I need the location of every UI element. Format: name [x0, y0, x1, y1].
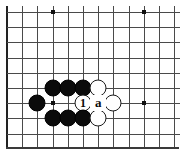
- grid-line-horizontal-3: [7, 58, 180, 59]
- white-stone-g8[interactable]: [90, 110, 107, 127]
- black-stone-c7[interactable]: [29, 95, 46, 112]
- goban-grid[interactable]: 1a: [0, 0, 186, 163]
- go-board-figure: 1a: [0, 0, 186, 163]
- grid-line-horizontal-1: [7, 27, 180, 28]
- grid-line-bottom-border: [6, 147, 179, 149]
- white-stone-g6[interactable]: [90, 80, 107, 97]
- star-point-middle-right: [142, 101, 146, 105]
- grid-line-horizontal-8: [7, 134, 180, 135]
- white-stone-h7[interactable]: [105, 95, 122, 112]
- star-point-top-right: [142, 10, 146, 14]
- grid-line-horizontal-0: [7, 12, 180, 13]
- star-point-top-left: [51, 10, 55, 14]
- star-point-middle-left: [51, 101, 55, 105]
- point-label-a[interactable]: a: [90, 95, 106, 111]
- grid-line-horizontal-4: [7, 73, 180, 74]
- grid-line-horizontal-2: [7, 42, 180, 43]
